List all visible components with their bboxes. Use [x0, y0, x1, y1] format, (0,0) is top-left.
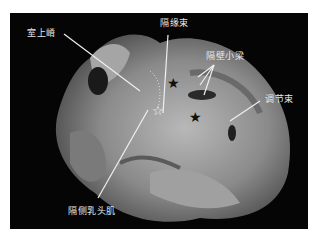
anatomy-photo: ★ ★ ☆ 室上嵴 隔缘束 隔壁小梁 调节束 隔侧乳头肌 [10, 13, 308, 229]
label-crista-supraventricularis: 室上嵴 [27, 28, 56, 38]
label-septomarginal-band: 隔缘束 [160, 18, 189, 28]
label-septal-papillary-muscle: 隔侧乳头肌 [68, 206, 116, 216]
label-moderator-band: 调节束 [265, 94, 294, 104]
white-star-marker: ☆ [152, 103, 164, 118]
label-septal-trabeculae: 隔壁小梁 [206, 51, 244, 61]
black-star-marker-1: ★ [167, 75, 180, 91]
heart-specimen-illustration: ★ ★ ☆ [10, 13, 308, 229]
black-star-marker-2: ★ [189, 109, 202, 125]
